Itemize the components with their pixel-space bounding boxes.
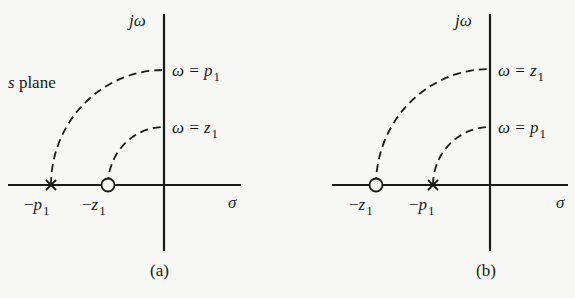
s-plane-diagrams xyxy=(0,0,575,298)
s-variable: s xyxy=(8,73,15,92)
panel-a-lower-label: ω = z1 xyxy=(172,119,218,136)
panel-a-plane-label: s plane xyxy=(8,74,56,91)
panel-a-upper-label: ω = p1 xyxy=(172,62,220,79)
panel-b-pole-label: −p1 xyxy=(409,196,435,213)
panel-a-real-axis-label: σ xyxy=(228,194,236,211)
s-plane-figure: jω s plane ω = p1 ω = z1 −p1 −z1 σ (a) j… xyxy=(0,0,575,298)
panel-b-caption: (b) xyxy=(476,262,496,279)
panel-a-zero-marker xyxy=(102,179,115,192)
panel-a-caption: (a) xyxy=(150,262,169,279)
panel-b-upper-label: ω = z1 xyxy=(498,62,544,79)
panel-b-imag-axis-label: jω xyxy=(455,12,472,29)
panel-a-imag-axis-label: jω xyxy=(129,12,146,29)
panel-b-lower-label: ω = p1 xyxy=(498,119,546,136)
panel-b-zero-marker xyxy=(370,179,383,192)
panel-a-zero-arc xyxy=(108,127,164,185)
panel-b-zero-arc xyxy=(376,69,490,185)
plane-word: plane xyxy=(15,73,56,92)
panel-a-zero-label: −z1 xyxy=(82,196,106,213)
panel-b-pole-arc xyxy=(433,127,490,185)
panel-a-pole-label: −p1 xyxy=(24,196,50,213)
panel-a-pole-arc xyxy=(51,70,164,185)
panel-b-zero-label: −z1 xyxy=(349,196,373,213)
panel-b-real-axis-label: σ xyxy=(556,194,564,211)
